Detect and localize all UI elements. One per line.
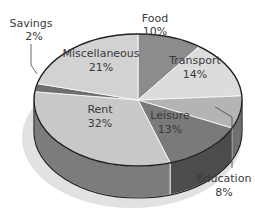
label-miscellaneous-name: Miscellaneous	[62, 47, 139, 60]
pie-chart: Food 10% Transport 14% Miscellaneous 21%…	[0, 0, 255, 210]
label-savings-name: Savings	[10, 17, 53, 30]
label-food-value: 10%	[143, 25, 167, 38]
label-miscellaneous-value: 21%	[89, 61, 113, 74]
label-leisure-name: Leisure	[150, 109, 190, 122]
label-rent-value: 32%	[88, 117, 112, 130]
leader-savings	[31, 44, 37, 74]
label-education-value: 8%	[215, 186, 232, 199]
label-leisure-value: 13%	[158, 123, 182, 136]
label-transport-value: 14%	[183, 68, 207, 81]
label-education-name: Education	[197, 172, 252, 185]
label-food-name: Food	[142, 12, 168, 25]
label-savings-value: 2%	[25, 30, 42, 43]
label-transport-name: Transport	[168, 54, 221, 67]
label-rent-name: Rent	[87, 103, 113, 116]
